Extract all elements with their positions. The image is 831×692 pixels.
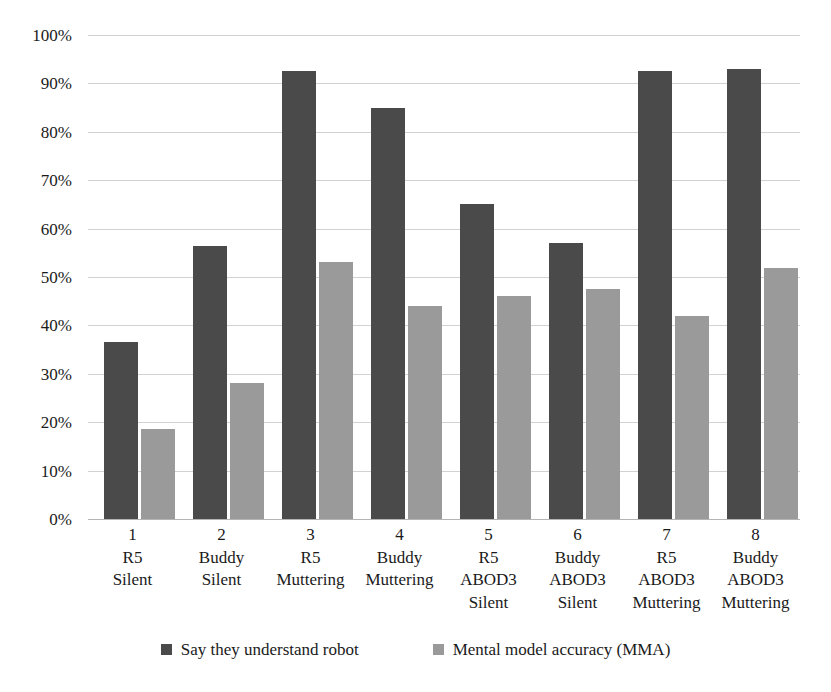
bar-group	[622, 35, 711, 519]
y-axis-tick-label: 40%	[41, 317, 72, 334]
y-axis-tick-label: 90%	[41, 75, 72, 92]
legend-item[interactable]: Say they understand robot	[161, 641, 359, 658]
x-axis: 1R5Silent2BuddySilent3R5Muttering4BuddyM…	[88, 524, 800, 624]
bar	[230, 383, 264, 519]
bar-group	[266, 35, 355, 519]
bar-group	[355, 35, 444, 519]
bar	[497, 296, 531, 519]
bar	[141, 429, 175, 519]
y-axis-tick-label: 20%	[41, 414, 72, 431]
x-axis-label-line: Buddy	[701, 547, 811, 570]
legend-swatch-icon	[433, 644, 444, 655]
bar	[408, 306, 442, 519]
legend-label: Mental model accuracy (MMA)	[453, 641, 671, 658]
x-axis-label-line: ABOD3	[701, 569, 811, 592]
x-axis-tick-label: 8BuddyABOD3Muttering	[701, 524, 811, 614]
y-axis-tick-label: 0%	[49, 511, 72, 528]
chart-legend: Say they understand robotMental model ac…	[0, 641, 831, 658]
y-axis-tick-label: 100%	[32, 27, 72, 44]
legend-label: Say they understand robot	[181, 641, 359, 658]
bar	[193, 246, 227, 519]
y-axis-tick-label: 50%	[41, 269, 72, 286]
bar	[586, 289, 620, 519]
bar	[727, 69, 761, 519]
bar	[319, 262, 353, 519]
bar-groups	[88, 35, 800, 519]
bar	[675, 316, 709, 519]
bar-group	[711, 35, 800, 519]
bar-group	[444, 35, 533, 519]
y-axis-tick-label: 70%	[41, 172, 72, 189]
bar	[371, 108, 405, 519]
y-axis-tick-label: 30%	[41, 365, 72, 382]
y-axis-tick-label: 80%	[41, 123, 72, 140]
x-axis-label-line: 8	[701, 524, 811, 547]
bar	[282, 71, 316, 519]
bar-group	[533, 35, 622, 519]
bar	[764, 268, 798, 519]
y-axis-tick-label: 10%	[41, 462, 72, 479]
bar	[460, 204, 494, 519]
bar	[104, 342, 138, 519]
bar	[638, 71, 672, 519]
y-axis-tick-label: 60%	[41, 220, 72, 237]
x-axis-label-line: Muttering	[701, 592, 811, 615]
bar-group	[88, 35, 177, 519]
gridline	[88, 519, 800, 520]
bar-group	[177, 35, 266, 519]
y-axis: 0%10%20%30%40%50%60%70%80%90%100%	[0, 35, 80, 519]
bar-chart: 0%10%20%30%40%50%60%70%80%90%100% 1R5Sil…	[0, 0, 831, 692]
bar	[549, 243, 583, 519]
legend-item[interactable]: Mental model accuracy (MMA)	[433, 641, 671, 658]
legend-swatch-icon	[161, 644, 172, 655]
